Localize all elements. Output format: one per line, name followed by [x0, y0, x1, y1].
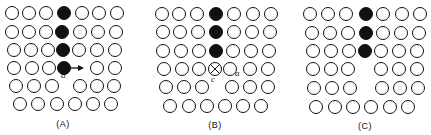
open-atom [174, 26, 187, 39]
open-atom [246, 26, 259, 39]
open-atom [76, 7, 89, 20]
open-atom [8, 44, 21, 57]
open-atom [325, 63, 338, 76]
open-atom [156, 8, 169, 21]
open-atom [325, 45, 338, 58]
open-atom [227, 45, 240, 58]
open-atom [324, 27, 337, 40]
filled-atom [210, 8, 223, 21]
open-atom [306, 27, 319, 40]
open-atom [310, 101, 323, 114]
panel-c-lattice [304, 8, 427, 114]
open-atom [411, 45, 424, 58]
open-atom [109, 62, 122, 75]
open-atom [69, 98, 82, 111]
open-atom [375, 63, 388, 76]
open-atom [394, 82, 407, 95]
open-atom [178, 81, 191, 94]
open-atom [377, 8, 390, 21]
filled-atom [359, 45, 372, 58]
open-atom [365, 101, 378, 114]
open-atom [10, 80, 23, 93]
open-atom [40, 7, 53, 20]
panel-b-annotation-a: a [235, 68, 240, 78]
open-atom [91, 62, 104, 75]
open-atom [183, 100, 196, 113]
panel-a-annotation-a: a [61, 70, 66, 80]
open-atom [226, 81, 239, 94]
open-atom [376, 82, 389, 95]
open-atom [393, 45, 406, 58]
panel-c-label: (C) [358, 121, 372, 131]
open-atom [347, 101, 360, 114]
open-atom [32, 98, 45, 111]
open-atom [262, 81, 275, 94]
open-atom [51, 98, 64, 111]
vacancy-diffusion-diagram [0, 0, 431, 135]
open-atom [73, 44, 86, 57]
open-atom [192, 26, 205, 39]
open-atom [375, 45, 388, 58]
open-atom [326, 82, 339, 95]
open-atom [173, 8, 186, 21]
open-atom [91, 44, 104, 57]
open-atom [160, 81, 173, 94]
open-atom [43, 62, 56, 75]
open-atom [384, 101, 397, 114]
open-atom [262, 63, 275, 76]
open-atom [6, 7, 19, 20]
open-atom [23, 26, 36, 39]
panel-b-label: (B) [208, 120, 222, 130]
filled-atom [58, 7, 71, 20]
open-atom [244, 63, 257, 76]
open-atom [110, 26, 123, 39]
panel-a-lattice [6, 7, 124, 111]
open-atom [164, 100, 177, 113]
open-atom [175, 45, 188, 58]
open-atom [304, 8, 317, 21]
open-atom [93, 7, 106, 20]
open-atom [342, 63, 355, 76]
open-atom [228, 26, 241, 39]
open-atom [307, 63, 320, 76]
open-atom [25, 44, 38, 57]
filled-atom [360, 27, 373, 40]
open-atom [219, 100, 232, 113]
open-atom [87, 98, 100, 111]
open-atom [26, 62, 39, 75]
open-atom [342, 27, 355, 40]
open-atom [46, 80, 59, 93]
open-atom [23, 7, 36, 20]
open-atom [28, 80, 41, 93]
open-atom [111, 7, 124, 20]
open-atom [91, 80, 104, 93]
open-atom [74, 80, 87, 93]
arrowhead-icon [78, 65, 84, 71]
open-atom [402, 101, 415, 114]
open-atom [14, 98, 27, 111]
open-atom [329, 101, 342, 114]
filled-atom [210, 45, 223, 58]
open-atom [201, 100, 214, 113]
open-atom [237, 100, 250, 113]
open-atom [191, 8, 204, 21]
open-atom [411, 63, 424, 76]
panel-b-annotation-c: c [211, 74, 215, 84]
open-atom [6, 26, 19, 39]
open-atom [193, 63, 206, 76]
open-atom [196, 81, 209, 94]
open-atom [395, 27, 408, 40]
open-atom [343, 45, 356, 58]
open-atom [74, 26, 87, 39]
open-atom [413, 27, 426, 40]
open-atom [158, 63, 171, 76]
filled-atom [360, 8, 373, 21]
open-atom [247, 8, 260, 21]
open-atom [308, 82, 321, 95]
open-atom [265, 8, 278, 21]
panel-b-lattice [156, 8, 278, 113]
panel-a-label: (A) [56, 119, 70, 129]
open-atom [108, 80, 121, 93]
open-atom [109, 44, 122, 57]
filled-atom [210, 26, 223, 39]
